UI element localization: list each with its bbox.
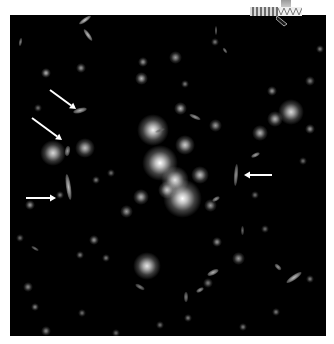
galaxy xyxy=(76,63,86,73)
galaxy xyxy=(120,205,133,218)
galaxy xyxy=(306,275,314,283)
galaxy xyxy=(41,326,51,336)
galaxy xyxy=(252,125,268,141)
galaxy xyxy=(158,181,176,199)
galaxy xyxy=(56,191,64,199)
galaxy xyxy=(305,76,315,86)
galaxy xyxy=(78,309,86,317)
galaxy xyxy=(89,235,99,245)
galaxy xyxy=(181,80,189,88)
galaxy xyxy=(175,135,196,156)
elongated-galaxy xyxy=(78,15,92,26)
elongated-galaxy xyxy=(184,292,188,302)
orientation-label xyxy=(281,0,291,7)
galaxy xyxy=(112,329,120,336)
galaxy xyxy=(75,138,96,159)
galaxy xyxy=(261,225,269,233)
elongated-galaxy xyxy=(285,270,303,284)
elongated-galaxy xyxy=(241,226,244,235)
elongated-galaxy xyxy=(215,26,217,35)
compass-icon xyxy=(276,15,288,27)
arrow-mid-left-icon xyxy=(32,118,62,140)
galaxy xyxy=(305,124,315,134)
galaxy xyxy=(209,119,222,132)
elongated-galaxy xyxy=(222,47,228,54)
galaxy xyxy=(23,282,33,292)
galaxy xyxy=(40,140,66,166)
elongated-galaxy xyxy=(31,245,39,252)
galaxy xyxy=(169,51,182,64)
galaxy xyxy=(92,176,100,184)
galaxy xyxy=(272,308,280,316)
lensed-arc xyxy=(64,174,73,200)
galaxy xyxy=(232,252,245,265)
galaxy xyxy=(135,72,148,85)
galaxy xyxy=(31,303,39,311)
galaxy xyxy=(102,254,110,262)
galaxy xyxy=(239,323,247,331)
lensed-arc xyxy=(73,106,88,114)
galaxy xyxy=(133,252,162,281)
galaxy xyxy=(267,111,283,127)
lensed-arc xyxy=(233,164,239,186)
galaxy xyxy=(251,191,259,199)
galaxy xyxy=(25,200,35,210)
elongated-galaxy xyxy=(135,283,146,291)
galaxy xyxy=(203,278,213,288)
galaxy xyxy=(34,104,42,112)
galaxy xyxy=(299,157,307,165)
elongated-galaxy xyxy=(18,38,22,46)
galaxy xyxy=(107,169,115,177)
cluster-image xyxy=(10,15,326,336)
elongated-galaxy xyxy=(274,263,282,271)
galaxy xyxy=(138,57,148,67)
galaxy xyxy=(191,166,209,184)
galaxy xyxy=(267,86,277,96)
elongated-galaxy xyxy=(196,286,205,293)
galaxy xyxy=(212,237,222,247)
galaxy xyxy=(174,102,187,115)
galaxy xyxy=(133,189,149,205)
elongated-galaxy xyxy=(82,28,93,42)
arrow-upper-left-icon xyxy=(50,90,76,109)
galaxy xyxy=(211,38,219,46)
arrow-right-icon xyxy=(244,172,272,179)
galaxy xyxy=(184,314,192,322)
galaxy xyxy=(316,45,324,53)
galaxy xyxy=(156,321,164,329)
elongated-galaxy xyxy=(207,267,220,277)
elongated-galaxy xyxy=(250,151,260,158)
galaxy xyxy=(16,234,24,242)
elongated-galaxy xyxy=(189,113,202,122)
galaxy xyxy=(41,68,51,78)
galaxy xyxy=(76,251,84,259)
